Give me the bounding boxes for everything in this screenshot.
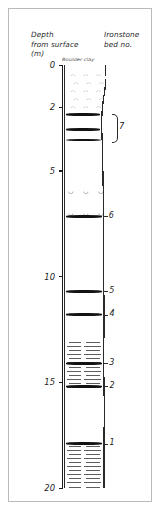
clast-symbol-row: ◠ ◠ ◠ ◠ (74, 97, 106, 102)
depth-tick (59, 107, 63, 108)
bed-leader-line (103, 363, 108, 364)
borehole-log-figure: Depth from surface (m) Ironstone bed no.… (0, 0, 162, 512)
depth-tick-label: 10 (33, 272, 55, 282)
shale-hatch-unit (65, 340, 105, 391)
bed-number-3: 3 (109, 358, 114, 367)
bed-leader-line (103, 291, 108, 292)
bed-number-header: Ironstone bed no. (104, 30, 139, 49)
clast-symbol-row: ◠ ◠ ◠ ◠ (71, 89, 106, 94)
ironstone-bed (66, 313, 102, 316)
clast-symbol-row: ◠ ◠ ◠ ◠ (71, 105, 106, 110)
bed-leader-line (103, 216, 108, 217)
bed-leader-line (103, 315, 108, 316)
depth-tick-label: 0 (33, 60, 55, 70)
bed-number-4: 4 (109, 309, 114, 318)
boulder-clay-annotation: Boulder clay (62, 57, 94, 62)
shell-symbol-row: ◡ ◡ ◡ ◡ (68, 187, 106, 194)
ironstone-bed (66, 385, 102, 388)
shale-hatch-unit (65, 444, 105, 488)
column-left-wall (64, 65, 65, 488)
ironstone-bed (66, 215, 102, 218)
bed-number-6: 6 (109, 211, 114, 220)
ironstone-bed (66, 128, 100, 131)
ironstone-bed (66, 139, 101, 142)
depth-tick-label: 15 (33, 377, 55, 387)
depth-tick (59, 488, 63, 489)
bed-number-1: 1 (109, 438, 114, 447)
depth-tick (59, 65, 63, 66)
depth-tick (59, 276, 63, 277)
depth-tick-label: 20 (33, 483, 55, 493)
bed-7-bracket (112, 114, 118, 143)
depth-axis-header: Depth from surface (m) (31, 30, 79, 59)
bed-number-2: 2 (109, 381, 114, 390)
depth-tick (59, 382, 63, 383)
ironstone-bed (66, 290, 102, 293)
bed-leader-line (103, 444, 108, 445)
depth-tick (59, 170, 63, 171)
bed-number-5: 5 (109, 286, 114, 295)
depth-tick-label: 2 (33, 102, 55, 112)
depth-tick-label: 5 (33, 166, 55, 176)
clast-symbol-row: ◠ ◠ ◠ ◠ (71, 73, 106, 78)
ironstone-bed (66, 442, 102, 445)
bed-leader-line (103, 386, 108, 387)
lithology-column: ◠ ◠ ◠ ◠◠ ◠ ◠ ◠◠ ◠ ◠ ◠◠ ◠ ◠ ◠◠ ◠ ◠ ◠◡ ◡ ◡… (64, 65, 106, 488)
clast-symbol-row: ◠ ◠ ◠ ◠ (74, 81, 106, 86)
ironstone-bed (66, 113, 100, 116)
bed-7-label: 7 (119, 121, 124, 131)
ironstone-bed (66, 362, 102, 365)
